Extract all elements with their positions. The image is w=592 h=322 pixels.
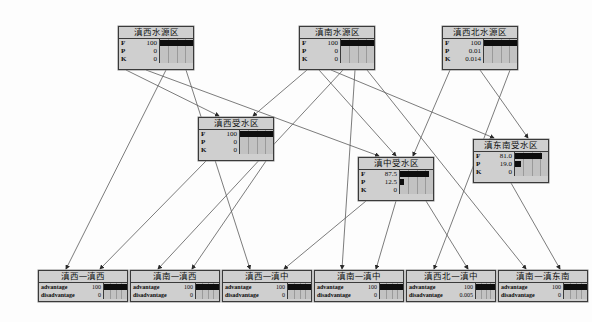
state-row[interactable]: F100 [119, 39, 159, 47]
node-body: advantage100disadvantage0 [315, 283, 403, 299]
node-body: advantage100disadvantage0 [39, 283, 127, 299]
state-label: advantage [39, 283, 80, 291]
state-label: advantage [131, 283, 172, 291]
state-value: 87.5 [374, 170, 399, 178]
state-bar-chart [399, 170, 433, 194]
node-n3[interactable]: 滇西北水源区F100P0.01K0.014 [442, 26, 518, 70]
state-label: K [443, 55, 456, 63]
state-value: 0 [172, 291, 195, 299]
state-list: advantage100disadvantage0 [223, 283, 287, 299]
state-row[interactable]: K0.014 [443, 55, 483, 63]
state-bar-track [160, 47, 193, 55]
state-row[interactable]: K0 [300, 55, 340, 63]
state-label: P [119, 47, 134, 55]
node-n2[interactable]: 滇南水源区F100P0K0 [299, 26, 375, 70]
state-row[interactable]: disadvantage0 [499, 291, 563, 299]
node-b2[interactable]: 滇南—滇西advantage100disadvantage0 [130, 270, 220, 302]
state-value: 0 [214, 138, 239, 146]
state-bar-fill [484, 40, 517, 46]
state-bar-track [341, 39, 374, 47]
state-row[interactable]: advantage100 [39, 283, 103, 291]
state-value: 100 [172, 283, 195, 291]
state-list: advantage100disadvantage0 [499, 283, 563, 299]
state-bar-fill [104, 284, 127, 290]
edge-n2-to-b2 [158, 70, 343, 269]
state-label: F [443, 39, 456, 47]
node-b6[interactable]: 滇南—滇东南advantage100disadvantage0 [498, 270, 588, 302]
state-row[interactable]: K0 [119, 55, 159, 63]
state-bar-fill [564, 284, 587, 290]
state-row[interactable]: K0 [199, 146, 239, 154]
node-title: 滇西—滇西 [39, 271, 127, 283]
state-list: F100P0.01K0.014 [443, 39, 483, 63]
state-label: K [474, 168, 487, 176]
state-value: 0.01 [456, 47, 483, 55]
node-b3[interactable]: 滇西—滇中advantage100disadvantage0 [222, 270, 312, 302]
state-row[interactable]: K0 [474, 168, 514, 176]
state-row[interactable]: disadvantage0 [223, 291, 287, 299]
state-row[interactable]: F100 [300, 39, 340, 47]
state-label: F [359, 170, 374, 178]
state-list: F87.5P12.5K0 [359, 170, 399, 194]
edge-n5-to-b5 [426, 201, 468, 269]
state-row[interactable]: F81.0 [474, 152, 514, 160]
state-value: 0 [356, 291, 379, 299]
node-title: 滇西受水区 [199, 118, 273, 130]
edge-n2-to-b4 [342, 70, 355, 269]
state-row[interactable]: P19.0 [474, 160, 514, 168]
state-row[interactable]: P0 [119, 47, 159, 55]
state-bar-track [564, 291, 587, 299]
state-row[interactable]: advantage100 [223, 283, 287, 291]
state-row[interactable]: disadvantage0.005 [407, 291, 475, 299]
state-row[interactable]: K0 [359, 186, 399, 194]
state-bar-fill [160, 40, 193, 46]
node-n4[interactable]: 滇西受水区F100P0K0 [198, 117, 274, 161]
edge-n4-to-b1 [100, 161, 206, 269]
state-row[interactable]: advantage100 [407, 283, 475, 291]
state-label: P [443, 47, 456, 55]
state-row[interactable]: P0 [300, 47, 340, 55]
node-n1[interactable]: 滇西水源区F100P0K0 [118, 26, 194, 70]
state-value: 100 [540, 283, 563, 291]
state-value: 100 [214, 130, 239, 138]
node-title: 滇中受水区 [359, 158, 433, 170]
node-body: F100P0.01K0.014 [443, 39, 517, 63]
state-label: P [300, 47, 315, 55]
state-value: 19.0 [487, 160, 514, 168]
state-row[interactable]: F100 [199, 130, 239, 138]
state-value: 0 [80, 291, 103, 299]
state-row[interactable]: P0.01 [443, 47, 483, 55]
state-bar-track [400, 186, 433, 194]
state-row[interactable]: advantage100 [499, 283, 563, 291]
state-row[interactable]: F87.5 [359, 170, 399, 178]
state-bar-track [476, 291, 495, 299]
state-label: disadvantage [223, 291, 264, 299]
state-value: 100 [356, 283, 379, 291]
state-row[interactable]: disadvantage0 [131, 291, 195, 299]
node-n5[interactable]: 滇中受水区F87.5P12.5K0 [358, 157, 434, 201]
state-row[interactable]: advantage100 [131, 283, 195, 291]
edge-n6-to-b6 [511, 183, 560, 269]
state-list: advantage100disadvantage0.005 [407, 283, 475, 299]
node-b1[interactable]: 滇西—滇西advantage100disadvantage0 [38, 270, 128, 302]
state-value: 0 [214, 146, 239, 154]
state-label: K [119, 55, 134, 63]
node-b4[interactable]: 滇南—滇中advantage100disadvantage0 [314, 270, 404, 302]
node-body: F81.0P19.0K0 [474, 152, 548, 176]
state-row[interactable]: advantage100 [315, 283, 379, 291]
node-title: 滇西北—滇中 [407, 271, 495, 283]
state-list: F100P0K0 [119, 39, 159, 63]
state-value: 100 [134, 39, 159, 47]
node-b5[interactable]: 滇西北—滇中advantage100disadvantage0.005 [406, 270, 496, 302]
node-n6[interactable]: 滇东南受水区F81.0P19.0K0 [473, 139, 549, 183]
edge-n2-to-n6 [331, 70, 494, 138]
state-row[interactable]: F100 [443, 39, 483, 47]
state-row[interactable]: P0 [199, 138, 239, 146]
diagram-canvas: 滇西水源区F100P0K0滇南水源区F100P0K0滇西北水源区F100P0.0… [0, 0, 592, 322]
state-bar-fill [196, 284, 219, 290]
state-label: disadvantage [499, 291, 540, 299]
state-row[interactable]: disadvantage0 [39, 291, 103, 299]
state-value: 0 [487, 168, 514, 176]
state-row[interactable]: disadvantage0 [315, 291, 379, 299]
state-row[interactable]: P12.5 [359, 178, 399, 186]
